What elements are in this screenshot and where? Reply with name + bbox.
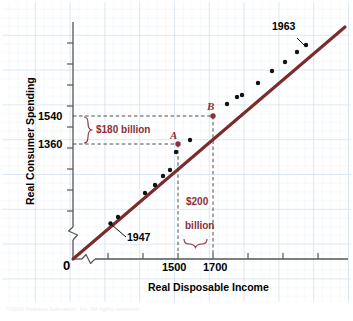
data-point bbox=[168, 168, 172, 172]
data-point bbox=[161, 174, 165, 178]
data-point bbox=[283, 60, 287, 64]
figure-caption: ©2006 Pearson Education, Inc. All rights… bbox=[6, 306, 140, 312]
data-point bbox=[116, 215, 120, 219]
data-point bbox=[240, 93, 244, 97]
run-annotation-unit: billion bbox=[185, 220, 214, 231]
chart-figure: Real Consumer Spending Real Disposable I… bbox=[0, 0, 353, 321]
rise-brace bbox=[84, 117, 92, 143]
data-point bbox=[256, 81, 260, 85]
data-point bbox=[295, 50, 299, 54]
point-b-label: B bbox=[207, 100, 214, 112]
data-point bbox=[188, 138, 192, 142]
origin-label: 0 bbox=[63, 258, 70, 273]
data-point bbox=[143, 191, 147, 195]
data-point bbox=[270, 69, 274, 73]
rise-annotation: $180 billion bbox=[96, 124, 150, 135]
point-a-label: A bbox=[170, 129, 177, 141]
data-point bbox=[225, 102, 229, 106]
y-axis bbox=[67, 22, 78, 259]
run-brace bbox=[184, 239, 207, 248]
point-a-marker bbox=[175, 141, 180, 146]
y-tick-label-1360: 1360 bbox=[38, 138, 62, 150]
data-point bbox=[153, 183, 157, 187]
leader-line-1947 bbox=[112, 225, 126, 237]
year-label-1963: 1963 bbox=[272, 20, 295, 32]
y-axis-title: Real Consumer Spending bbox=[24, 77, 36, 205]
x-tick-label-1700: 1700 bbox=[203, 261, 227, 273]
x-tick-label-1500: 1500 bbox=[162, 261, 186, 273]
year-label-1947: 1947 bbox=[127, 231, 150, 243]
point-b-marker bbox=[210, 113, 215, 118]
data-point bbox=[174, 150, 178, 154]
x-axis-title: Real Disposable Income bbox=[148, 281, 269, 293]
run-annotation-amount: $200 bbox=[186, 196, 208, 207]
data-point bbox=[235, 95, 239, 99]
y-tick-label-1540: 1540 bbox=[38, 110, 62, 122]
leader-line-1963 bbox=[297, 38, 306, 47]
